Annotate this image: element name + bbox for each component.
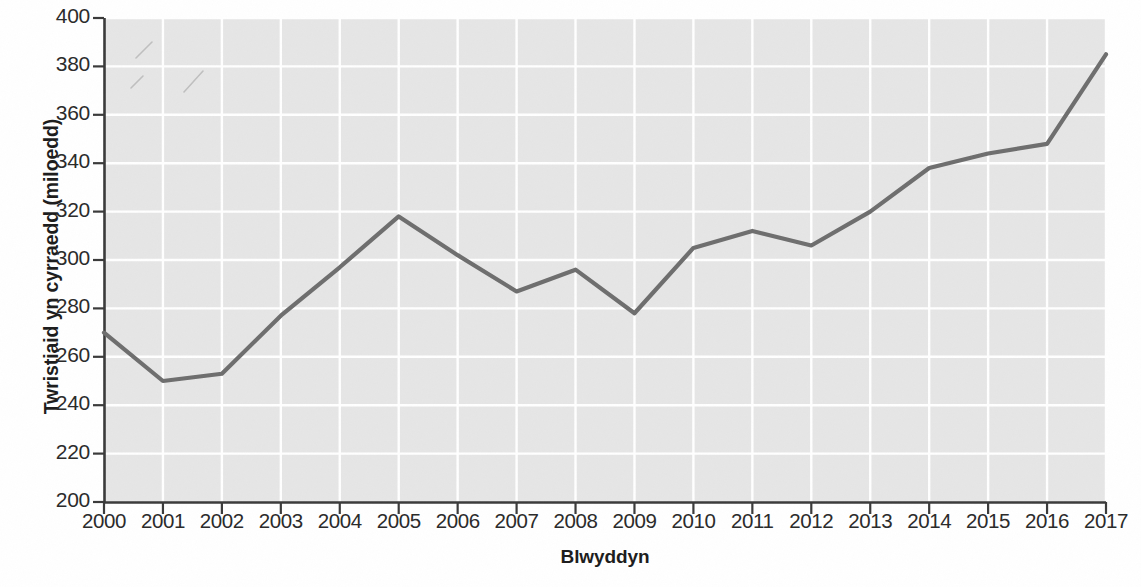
plot-area — [0, 0, 1141, 587]
line-chart-figure: Twristiaid yn cyrraedd (miloedd) 2002202… — [0, 0, 1141, 587]
y-axis-ticks — [93, 18, 104, 502]
